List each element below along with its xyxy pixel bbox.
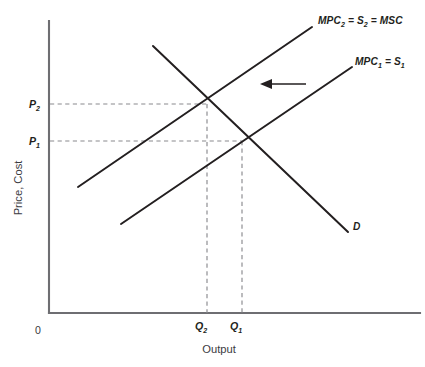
y-axis-title: Price, Cost <box>12 160 24 216</box>
label-s1-subscript: 1 <box>401 62 405 70</box>
guideline-group <box>50 104 242 313</box>
label-demand: D <box>353 221 361 232</box>
curve-mpc1-s1 <box>121 67 352 224</box>
x-tick-q1-subscript: 1 <box>238 327 242 335</box>
x-tick-label-q2: Q2 <box>195 320 207 335</box>
economics-externality-diagram: MPC2 = S2 = MSC MPC1 = S1 D P2 P1 Q2 Q1 … <box>0 0 425 367</box>
curve-group <box>78 27 352 232</box>
label-mpc1-base: MPC <box>355 56 378 67</box>
label-mpc2-s2-msc: MPC2 = S2 = MSC <box>318 15 403 29</box>
label-msc-eq2: = MSC <box>368 15 403 26</box>
origin-label: 0 <box>35 324 41 336</box>
arrow-head-icon <box>260 79 272 89</box>
x-tick-label-q1: Q1 <box>230 320 242 335</box>
label-mpc2-base: MPC <box>318 15 341 26</box>
label-mpc1-eq1: = <box>382 56 394 67</box>
y-tick-label-p1: P1 <box>29 135 40 150</box>
curve-demand <box>153 46 348 232</box>
label-mpc2-eq1: = <box>345 15 357 26</box>
leftward-shift-arrow <box>260 79 306 89</box>
label-mpc1-s1: MPC1 = S1 <box>355 56 405 70</box>
x-tick-q2-subscript: 2 <box>202 327 207 335</box>
x-axis-title: Output <box>202 343 236 355</box>
y-tick-p2-subscript: 2 <box>35 105 40 113</box>
y-tick-p1-subscript: 1 <box>36 142 40 150</box>
y-tick-label-p2: P2 <box>29 98 40 113</box>
